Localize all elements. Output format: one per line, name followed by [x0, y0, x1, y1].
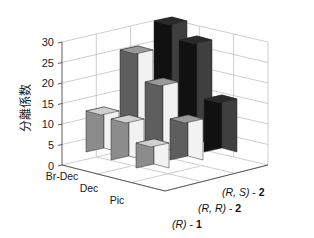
bar-pic-rs2 [204, 95, 237, 152]
bar-pic-r1 [136, 139, 169, 168]
series-label-r1: (R) - 1 [172, 218, 202, 230]
depth-label-pic: Pic [110, 194, 125, 206]
y-tick-5: 5 [48, 139, 54, 151]
y-axis-title: 分離係数 [18, 84, 33, 132]
y-tick-20: 20 [42, 77, 54, 89]
y-tick-30: 30 [42, 36, 54, 48]
bar-pic-rr2 [170, 115, 203, 160]
series-label-rs2: (R, S) - 2 [222, 186, 265, 198]
chart-canvas: 30 25 20 15 10 5 0 分離係数 [0, 0, 314, 238]
depth-label-dec: Dec [80, 182, 99, 194]
chart-3d-bar: 30 25 20 15 10 5 0 分離係数 [0, 0, 314, 238]
y-axis-tick-labels: 30 25 20 15 10 5 0 [42, 36, 54, 172]
y-tick-25: 25 [42, 57, 54, 69]
series-label-rr2: (R, R) - 2 [198, 202, 241, 214]
series-axis-labels: (R, S) - 2 (R, R) - 2 (R) - 1 [172, 186, 265, 230]
y-tick-10: 10 [42, 118, 54, 130]
y-tick-15: 15 [42, 98, 54, 110]
depth-label-br-dec: Br-Dec [46, 170, 79, 182]
